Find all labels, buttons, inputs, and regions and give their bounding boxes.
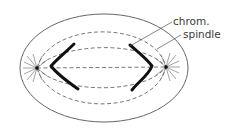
right-centrosome	[164, 65, 168, 69]
spindle-fibers	[37, 32, 166, 104]
chromosome-label: chrom.	[173, 16, 210, 27]
right-pole-aster	[156, 53, 180, 81]
spindle-label: spindle	[183, 29, 221, 40]
left-centrosome	[35, 66, 39, 70]
left-pole-aster	[23, 54, 47, 82]
chrom-leader-line	[130, 22, 172, 46]
